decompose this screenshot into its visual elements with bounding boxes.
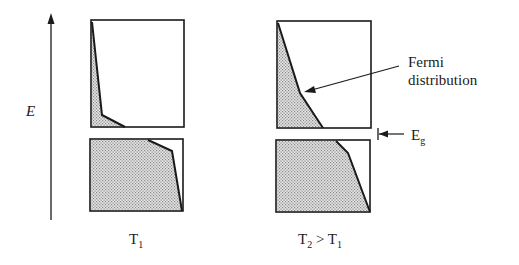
- label-t2: T2 > T1: [298, 231, 342, 250]
- label-t1: T1: [129, 231, 143, 250]
- conduction-band-t2: [277, 21, 371, 128]
- band-diagram: E T1 T2 > T1: [0, 0, 519, 265]
- band-gap-label: Eg: [411, 127, 425, 146]
- conduction-band-t1: [91, 20, 184, 127]
- band-gap-marker: [378, 128, 404, 140]
- energy-axis-label: E: [25, 103, 35, 119]
- valence-band-t2: [276, 140, 370, 212]
- arrow-up-icon: [48, 13, 55, 24]
- valence-band-t1: [90, 139, 183, 211]
- fermi-label-line1: Fermi: [408, 54, 444, 70]
- arrow-left-icon: [379, 131, 388, 138]
- panel-t1: [90, 20, 184, 211]
- fermi-label-line2: distribution: [408, 72, 478, 88]
- energy-axis: [48, 13, 55, 220]
- panel-t2: [276, 21, 371, 212]
- hole-occupation-t1: [91, 140, 182, 210]
